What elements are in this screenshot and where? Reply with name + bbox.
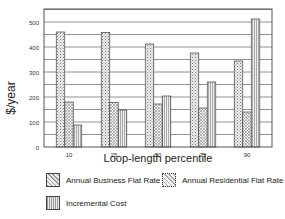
y-axis-label: $/year	[4, 78, 18, 118]
bar-residential	[110, 103, 119, 148]
bar-residential	[154, 104, 163, 147]
bar-incremental	[118, 110, 127, 147]
x-axis-label: Loop-length percentile	[44, 152, 272, 164]
legend-swatch-residential	[162, 173, 176, 187]
bar-business	[234, 61, 243, 147]
bar-business	[190, 53, 199, 147]
y-tick-label: 500	[29, 20, 40, 26]
legend-item-residential: Annual Residential Flat Rate	[162, 173, 283, 187]
legend-item-incremental: Incremental Cost	[46, 196, 126, 210]
bar-residential	[199, 108, 208, 147]
bar-incremental	[251, 19, 260, 147]
legend-item-business: Annual Business Flat Rate	[46, 173, 160, 187]
bar-residential	[65, 102, 74, 147]
legend-swatch-incremental	[46, 196, 60, 210]
bar-business	[145, 44, 154, 147]
bars	[56, 19, 260, 147]
bar-incremental	[207, 82, 216, 147]
bar-incremental	[162, 96, 171, 147]
y-tick-label: 300	[29, 70, 40, 76]
y-tick-label: 100	[29, 120, 40, 126]
bar-business	[56, 32, 65, 147]
y-tick-label: 200	[29, 95, 40, 101]
bar-business	[101, 33, 110, 148]
bar-residential	[243, 112, 252, 147]
bar-incremental	[73, 125, 82, 147]
y-axis-ticks: 0100200300400500	[29, 20, 40, 151]
y-tick-label: 400	[29, 45, 40, 51]
y-tick-label: 0	[36, 145, 40, 151]
legend-swatch-business	[46, 173, 60, 187]
